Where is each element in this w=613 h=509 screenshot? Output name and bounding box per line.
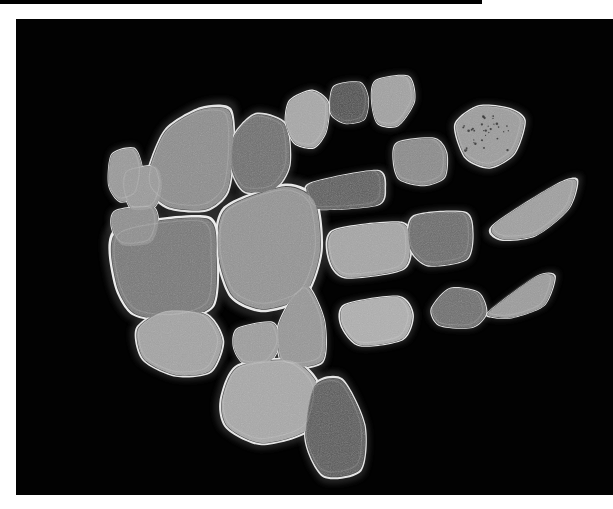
specimen-body [394,139,447,185]
specimen-speckle [496,138,498,140]
specimen-speckle [483,130,484,131]
specimen-body [328,223,410,278]
specimen-speckle [496,122,499,125]
top-black-strip [0,0,482,4]
specimen-speckle [473,130,475,132]
specimen-speckle [467,130,470,133]
specimen-speckle [493,124,494,125]
screenshot-root [0,0,613,509]
specimen-speckle [498,126,500,128]
specimen-speckle [466,149,467,150]
specimen-speckle [488,126,489,127]
specimen-speckle [483,147,485,149]
specimen-speckle [472,128,474,130]
specimen-speckle [466,147,468,149]
specimen-speckle [481,139,483,141]
specimen-speckle [506,149,508,151]
specimen-speckle [508,130,509,131]
specimen-speckle [474,143,476,145]
specimen-body [340,297,412,346]
specimen-speckle [483,117,485,119]
specimen-speckle [473,139,474,140]
specimen-plate-canvas [16,19,613,495]
specimen-speckle [492,115,494,117]
specimen-speckle [492,118,493,119]
specimen-speckle [481,123,483,125]
specimen-speckle [490,128,492,130]
specimen-speckle [485,129,487,131]
specimen-speckle [488,132,489,133]
specimen-speckle [473,142,474,143]
specimen-speckle [462,126,464,128]
specimen-speckle [503,131,504,132]
specimen-speckle [463,125,465,127]
specimen-plate [16,19,613,495]
specimen-speckle [506,125,508,127]
specimen-body [409,212,473,265]
specimen-speckle [485,135,486,136]
